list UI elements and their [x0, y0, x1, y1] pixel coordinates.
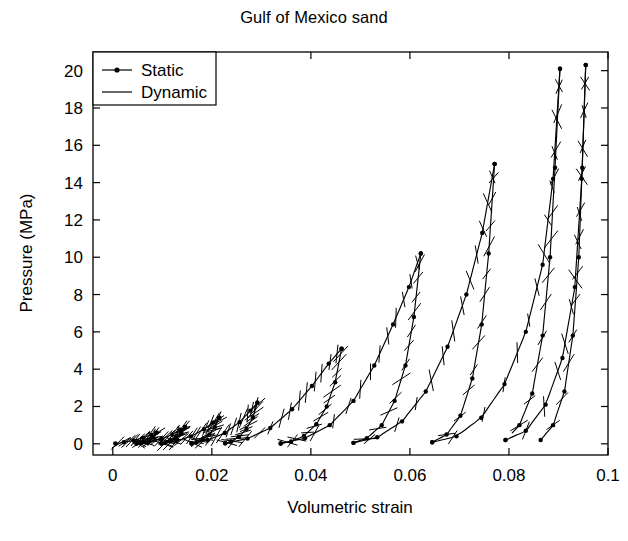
static-data-point	[328, 423, 332, 427]
static-data-point	[503, 438, 507, 442]
static-data-point	[454, 434, 458, 438]
x-tick-label: 0.06	[393, 466, 426, 485]
static-data-point	[403, 363, 407, 367]
static-data-point	[146, 440, 150, 444]
static-data-point	[553, 165, 557, 169]
static-data-point	[223, 441, 227, 445]
static-data-point	[237, 435, 241, 439]
static-data-point	[400, 419, 404, 423]
static-data-point	[327, 361, 331, 365]
static-data-point	[540, 333, 544, 337]
static-data-point	[580, 165, 584, 169]
static-data-point	[122, 440, 126, 444]
y-tick-label: 16	[64, 136, 83, 155]
static-data-point	[580, 177, 584, 181]
static-data-point	[170, 432, 174, 436]
chart-figure: Gulf of Mexico sand 00.020.040.060.080.1…	[0, 0, 628, 541]
static-data-point	[540, 262, 544, 266]
static-data-point	[154, 430, 158, 434]
static-data-point	[179, 431, 183, 435]
static-curve	[541, 65, 586, 440]
static-data-point	[502, 382, 506, 386]
static-data-point	[464, 292, 468, 296]
y-axis-tick-labels: 02468101214161820	[64, 62, 83, 454]
static-data-point	[268, 426, 272, 430]
static-data-point	[333, 380, 337, 384]
static-curve	[281, 349, 342, 444]
y-tick-label: 10	[64, 248, 83, 267]
static-data-point	[351, 441, 355, 445]
static-data-point	[248, 408, 252, 412]
static-data-point	[480, 322, 484, 326]
static-data-point	[303, 436, 307, 440]
legend-label-static: Static	[141, 61, 184, 80]
static-data-point	[486, 251, 490, 255]
static-curve	[353, 164, 494, 443]
dynamic-curves-group	[112, 77, 590, 451]
static-data-point	[183, 425, 187, 429]
static-data-point	[174, 439, 178, 443]
static-data-point	[543, 402, 547, 406]
static-curve	[512, 69, 560, 433]
y-tick-label: 14	[64, 174, 83, 193]
static-data-point	[134, 441, 138, 445]
static-data-point	[551, 177, 555, 181]
x-tick-label: 0.02	[195, 466, 228, 485]
static-data-point	[524, 330, 528, 334]
static-data-point	[479, 415, 483, 419]
static-data-point	[159, 441, 163, 445]
static-data-point	[577, 255, 581, 259]
static-data-point	[290, 407, 294, 411]
static-data-point	[419, 251, 423, 255]
y-tick-label: 0	[74, 435, 83, 454]
static-data-point	[412, 315, 416, 319]
static-data-point	[560, 356, 564, 360]
static-data-point	[492, 162, 496, 166]
static-data-point	[571, 333, 575, 337]
y-tick-label: 6	[74, 323, 83, 342]
legend: Static Dynamic	[93, 52, 216, 105]
x-tick-label: 0.08	[492, 466, 525, 485]
static-data-point	[530, 391, 534, 395]
static-data-point	[159, 437, 163, 441]
static-data-point	[289, 439, 293, 443]
static-data-point	[189, 434, 193, 438]
static-data-point	[229, 439, 233, 443]
static-data-point	[138, 441, 142, 445]
static-data-point	[202, 427, 206, 431]
static-data-point	[551, 423, 555, 427]
y-tick-label: 12	[64, 211, 83, 230]
static-data-point	[392, 399, 396, 403]
static-curve	[281, 254, 421, 444]
static-data-point	[458, 414, 462, 418]
static-markers-group	[113, 63, 588, 446]
static-data-point	[223, 431, 227, 435]
static-data-point	[562, 389, 566, 393]
static-data-point	[380, 423, 384, 427]
y-tick-label: 18	[64, 99, 83, 118]
static-data-point	[375, 435, 379, 439]
static-data-point	[444, 432, 448, 436]
static-data-point	[251, 415, 255, 419]
y-axis-ticks	[93, 71, 608, 444]
static-data-point	[445, 345, 449, 349]
static-data-point	[424, 389, 428, 393]
static-data-point	[558, 67, 562, 71]
static-data-point	[169, 439, 173, 443]
static-curve	[225, 349, 341, 444]
static-data-point	[480, 231, 484, 235]
static-data-point	[237, 420, 241, 424]
static-data-point	[163, 441, 167, 445]
static-data-point	[470, 376, 474, 380]
static-data-point	[207, 432, 211, 436]
static-data-point	[245, 436, 249, 440]
y-axis-title: Pressure (MPa)	[17, 193, 36, 312]
x-axis-title: Volumetric strain	[287, 498, 413, 517]
static-data-point	[189, 441, 193, 445]
static-data-point	[407, 285, 411, 289]
y-tick-label: 2	[74, 397, 83, 416]
static-data-point	[211, 420, 215, 424]
static-data-point	[151, 435, 155, 439]
static-data-point	[391, 322, 395, 326]
static-data-point	[548, 255, 552, 259]
